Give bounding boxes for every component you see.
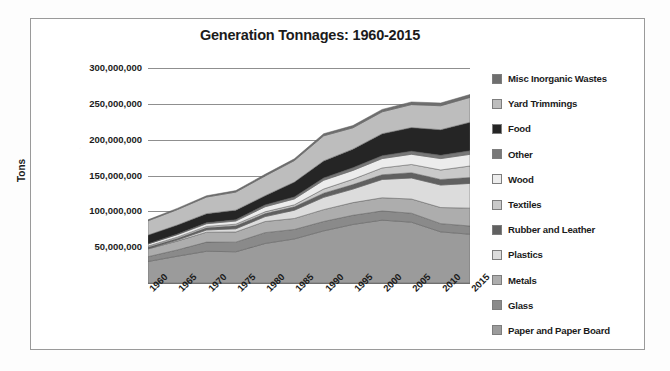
- legend-item-label: Wood: [508, 174, 534, 185]
- legend-swatch-icon: [492, 225, 502, 235]
- plot-area: [148, 68, 470, 283]
- legend-swatch-icon: [492, 275, 502, 285]
- legend-item-label: Yard Trimmings: [508, 98, 577, 109]
- legend-item[interactable]: Plastics: [492, 242, 642, 267]
- chart-title: Generation Tonnages: 1960-2015: [150, 27, 470, 43]
- legend-item[interactable]: Misc Inorganic Wastes: [492, 66, 642, 91]
- legend-item[interactable]: Other: [492, 142, 642, 167]
- legend-item-label: Other: [508, 149, 533, 160]
- chart-legend: Misc Inorganic WastesYard TrimmingsFoodO…: [492, 66, 642, 343]
- legend-swatch-icon: [492, 325, 502, 335]
- legend-item[interactable]: Wood: [492, 167, 642, 192]
- chart-page: Generation Tonnages: 1960-2015 Tons 300,…: [0, 0, 670, 371]
- legend-item-label: Food: [508, 123, 531, 134]
- legend-swatch-icon: [492, 149, 502, 159]
- y-tick-label: 100,000,000: [58, 205, 142, 216]
- legend-swatch-icon: [492, 124, 502, 134]
- legend-item[interactable]: Paper and Paper Board: [492, 318, 642, 343]
- legend-item[interactable]: Food: [492, 116, 642, 141]
- legend-item-label: Paper and Paper Board: [508, 325, 610, 336]
- legend-item[interactable]: Yard Trimmings: [492, 91, 642, 116]
- legend-item-label: Textiles: [508, 199, 541, 210]
- legend-item[interactable]: Glass: [492, 293, 642, 318]
- x-axis-tick-labels: 1960196519701975198019851990199520002005…: [148, 286, 470, 334]
- legend-swatch-icon: [492, 74, 502, 84]
- y-tick-label: 250,000,000: [58, 98, 142, 109]
- legend-item-label: Rubber and Leather: [508, 224, 595, 235]
- legend-item[interactable]: Rubber and Leather: [492, 217, 642, 242]
- legend-item-label: Metals: [508, 275, 537, 286]
- legend-swatch-icon: [492, 200, 502, 210]
- legend-item-label: Glass: [508, 300, 533, 311]
- y-tick-label: 300,000,000: [58, 62, 142, 73]
- legend-item[interactable]: Metals: [492, 268, 642, 293]
- y-axis-tick-labels: 300,000,000250,000,000200,000,000150,000…: [56, 68, 142, 283]
- y-tick-label: 200,000,000: [58, 134, 142, 145]
- stacked-area-series: [148, 68, 470, 283]
- y-tick-label: 150,000,000: [58, 170, 142, 181]
- legend-item-label: Plastics: [508, 249, 543, 260]
- legend-swatch-icon: [492, 300, 502, 310]
- y-tick-label: 50,000,000: [58, 241, 142, 252]
- legend-item-label: Misc Inorganic Wastes: [508, 73, 607, 84]
- legend-item[interactable]: Textiles: [492, 192, 642, 217]
- legend-swatch-icon: [492, 250, 502, 260]
- y-axis-label: Tons: [16, 159, 27, 182]
- legend-swatch-icon: [492, 99, 502, 109]
- legend-swatch-icon: [492, 174, 502, 184]
